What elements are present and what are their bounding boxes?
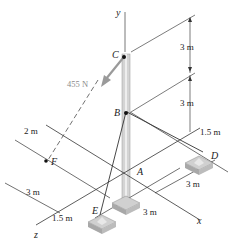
point-c	[122, 55, 126, 59]
point-c-label: C	[112, 50, 119, 60]
dim-d-offset: 1.5 m	[200, 128, 221, 137]
cable-bd	[127, 112, 203, 152]
point-e-label: E	[92, 206, 98, 216]
dim-bc: 3 m	[180, 43, 194, 52]
dim-e-x: 1.5 m	[52, 214, 73, 223]
dim-d-z: 3 m	[186, 180, 200, 189]
point-d-label: D	[211, 151, 218, 161]
x-axis-label: x	[197, 216, 201, 226]
force-arrowhead	[101, 75, 111, 87]
point-f-label: F	[51, 157, 57, 167]
y-axis-label: y	[116, 8, 120, 18]
point-b-label: B	[114, 108, 120, 118]
dim-f-offset: 2 m	[24, 127, 38, 136]
point-f	[44, 159, 48, 163]
dashed-line-cf	[48, 80, 98, 160]
force-arrow	[106, 58, 123, 79]
point-b	[124, 111, 128, 115]
footing-d	[185, 156, 213, 175]
statics-diagram	[0, 0, 235, 246]
dim-ab: 3 m	[180, 99, 194, 108]
force-label: 455 N	[67, 80, 88, 89]
z-axis-label: z	[34, 230, 38, 240]
footing-a	[112, 196, 140, 215]
point-a-label: A	[137, 167, 143, 177]
dim-e-to-d: 3 m	[143, 208, 157, 217]
footing-e	[88, 215, 116, 234]
pole-highlight	[125, 54, 127, 204]
dim-f-z: 3 m	[26, 188, 40, 197]
